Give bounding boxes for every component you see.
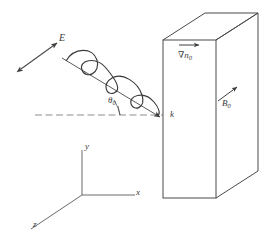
wavevector-label: k [170, 110, 174, 119]
slab-top-face [163, 13, 258, 40]
physics-diagram-figure: E θ0 k ∇n0 B0 y x z [0, 0, 272, 243]
electric-field-arrow-line [21, 43, 57, 69]
axis-z-label: z [33, 220, 37, 229]
electric-field-arrow [21, 43, 57, 69]
density-gradient-label: ∇n0 [178, 51, 192, 61]
density-subscript: 0 [189, 54, 192, 61]
angle-arc-tick [118, 106, 120, 115]
magnetic-field-label: B0 [222, 99, 231, 109]
axis-z-line [31, 195, 82, 229]
wave-ray-line [62, 58, 160, 117]
axis-x-label: x [136, 188, 140, 197]
incident-ray-group [62, 50, 160, 117]
incidence-angle-label: θ0 [108, 96, 116, 106]
axis-y-label: y [85, 142, 89, 151]
plasma-slab [163, 13, 258, 198]
slab-front-face [163, 40, 216, 198]
electric-field-label: E [59, 33, 65, 43]
theta-subscript: 0 [112, 99, 115, 106]
coordinate-axes [31, 150, 135, 229]
b-subscript: 0 [228, 102, 231, 109]
diagram-canvas [0, 0, 272, 243]
